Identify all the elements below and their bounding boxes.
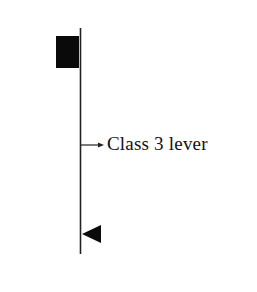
effort-arrow-icon xyxy=(81,143,104,148)
class-3-lever-diagram: Class 3 lever xyxy=(0,0,257,292)
lever-label: Class 3 lever xyxy=(107,133,208,155)
fulcrum-triangle-icon xyxy=(82,225,101,243)
load-block xyxy=(56,36,79,68)
